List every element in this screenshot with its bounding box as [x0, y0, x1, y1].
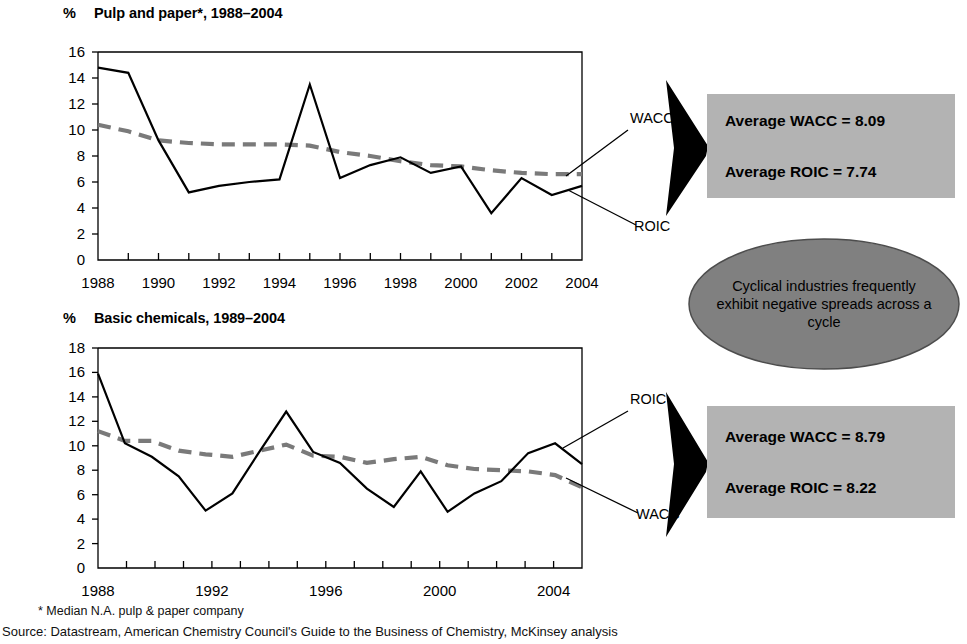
average-wacc-value: Average WACC = 8.79 [725, 428, 955, 445]
footnote-median-company: * Median N.A. pulp & paper company [38, 604, 244, 618]
wacc-series-line [98, 125, 582, 174]
plot-frame [98, 52, 582, 260]
wacc-series-line [98, 431, 582, 487]
xtick-2002: 2002 [505, 274, 538, 291]
chart-basic-chemicals: % Basic chemicals, 1989–2004 18 16 14 12… [0, 308, 660, 608]
ytick-8: 8 [77, 461, 85, 478]
ytick-2: 2 [77, 535, 85, 552]
ytick-0: 0 [77, 559, 85, 576]
cyclical-callout: Cyclical industries frequently exhibit n… [688, 238, 960, 370]
chart-pulp-and-paper: % Pulp and paper*, 1988–2004 16 14 12 10… [0, 0, 660, 305]
roic-series-line [98, 374, 582, 512]
chart-title: Pulp and paper*, 1988–2004 [94, 5, 282, 21]
x-tickmarks [128, 253, 552, 260]
average-roic-value: Average ROIC = 7.74 [725, 163, 955, 180]
ytick-14: 14 [68, 388, 85, 405]
xtick-1996: 1996 [309, 582, 342, 599]
ytick-4: 4 [77, 510, 85, 527]
source-line: Source: Datastream, American Chemistry C… [2, 624, 618, 639]
basic-chemicals-plot: 18 16 14 12 10 8 6 4 2 0 [0, 308, 660, 606]
roic-callout-label: ROIC [630, 391, 666, 407]
series-leader-lines [563, 411, 638, 513]
ytick-0: 0 [77, 251, 85, 268]
slide-root: % Pulp and paper*, 1988–2004 16 14 12 10… [0, 0, 967, 644]
ytick-16: 16 [68, 363, 85, 380]
ytick-6: 6 [77, 486, 85, 503]
xtick-1992: 1992 [202, 274, 235, 291]
ytick-12: 12 [68, 95, 85, 112]
xtick-1998: 1998 [384, 274, 417, 291]
pulp-and-paper-plot: 16 14 12 10 8 6 4 2 0 [0, 0, 660, 300]
ytick-4: 4 [77, 199, 85, 216]
ytick-2: 2 [77, 225, 85, 242]
ytick-10: 10 [68, 437, 85, 454]
xtick-1990: 1990 [142, 274, 175, 291]
y-axis-unit-label: % [63, 5, 76, 21]
ytick-12: 12 [68, 412, 85, 429]
chart-title: Basic chemicals, 1989–2004 [94, 310, 285, 326]
info-box-pulp-averages: Average WACC = 8.09 Average ROIC = 7.74 [707, 94, 955, 198]
xtick-2004: 2004 [537, 582, 570, 599]
ytick-6: 6 [77, 173, 85, 190]
xtick-1994: 1994 [263, 274, 296, 291]
xtick-1992: 1992 [195, 582, 228, 599]
ytick-16: 16 [68, 43, 85, 60]
ytick-18: 18 [68, 339, 85, 356]
average-roic-value: Average ROIC = 8.22 [725, 479, 955, 496]
xtick-1988: 1988 [81, 274, 114, 291]
xtick-2000: 2000 [444, 274, 477, 291]
plot-frame [98, 348, 582, 568]
xtick-1988: 1988 [81, 582, 114, 599]
info-box-chemicals-averages: Average WACC = 8.79 Average ROIC = 8.22 [707, 406, 955, 518]
xtick-1996: 1996 [323, 274, 356, 291]
ytick-14: 14 [68, 69, 85, 86]
xtick-2004: 2004 [565, 274, 598, 291]
y-axis-unit-label: % [63, 310, 76, 326]
y-tickmarks [92, 52, 98, 234]
y-tickmarks [92, 348, 98, 544]
roic-callout-label: ROIC [634, 218, 670, 234]
x-tickmarks [127, 561, 554, 568]
ytick-8: 8 [77, 147, 85, 164]
ytick-10: 10 [68, 121, 85, 138]
arrow-to-chemicals-averages [664, 392, 712, 537]
average-wacc-value: Average WACC = 8.09 [725, 112, 955, 129]
arrow-to-pulp-averages [664, 80, 712, 216]
cyclical-callout-text: Cyclical industries frequently exhibit n… [688, 238, 960, 370]
xtick-2000: 2000 [423, 582, 456, 599]
series-leader-lines [566, 130, 636, 225]
